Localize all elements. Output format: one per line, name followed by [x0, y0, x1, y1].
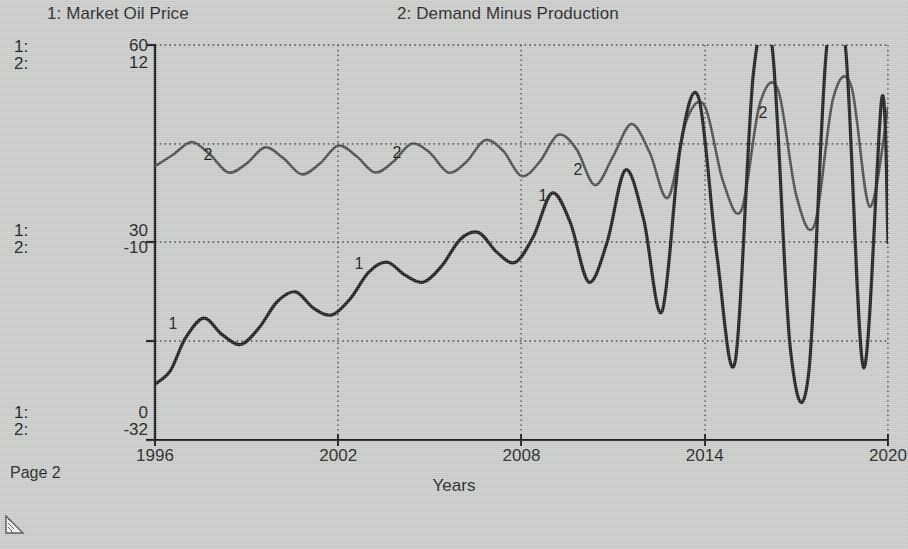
x-tick-label-1996: 1996 — [136, 446, 174, 466]
curve-tag-2-5: 2 — [574, 161, 583, 179]
page-label: Page 2 — [10, 464, 61, 482]
x-tick-label-2020: 2020 — [869, 446, 907, 466]
curve-tag-2-3: 2 — [204, 146, 213, 164]
x-tick-label-2008: 2008 — [503, 446, 541, 466]
x-axis-label: Years — [0, 476, 908, 496]
chart-window: 1: Market Oil Price 2: Demand Minus Prod… — [0, 0, 908, 549]
x-tick-label-2014: 2014 — [686, 446, 724, 466]
curve-tag-1-1: 1 — [355, 255, 364, 273]
x-tick-label-2002: 2002 — [319, 446, 357, 466]
curve-tag-1-0: 1 — [169, 315, 178, 333]
curve-tag-2-6: 2 — [759, 104, 768, 122]
curve-tag-2-4: 2 — [393, 144, 402, 162]
plot-area: 1112222 — [0, 0, 908, 549]
curve-tag-1-2: 1 — [539, 187, 548, 205]
plot-svg — [0, 0, 908, 549]
resize-corner-icon[interactable] — [4, 513, 28, 537]
